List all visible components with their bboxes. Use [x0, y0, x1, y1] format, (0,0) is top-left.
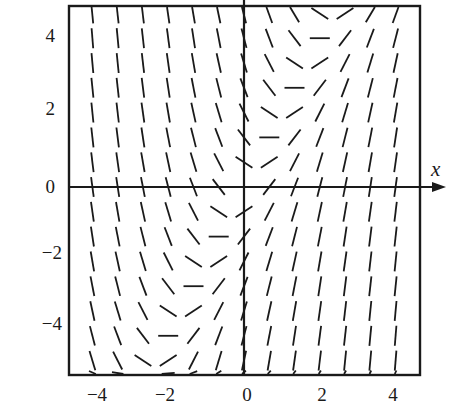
- slope-segment: [214, 153, 223, 171]
- slope-segment: [116, 227, 120, 247]
- slope-segment: [115, 277, 120, 296]
- slope-segment: [216, 78, 221, 97]
- slope-segment: [368, 128, 372, 148]
- slope-segment: [185, 256, 202, 267]
- slope-segment: [141, 227, 146, 246]
- slope-segment: [292, 202, 298, 221]
- slope-segment: [395, 326, 397, 346]
- slope-segment: [343, 152, 347, 172]
- slope-segment: [142, 103, 145, 123]
- slope-segment: [315, 104, 324, 122]
- slope-segment: [344, 252, 347, 272]
- slope-segment: [217, 7, 220, 23]
- slope-segment: [89, 371, 96, 374]
- slope-segment: [142, 28, 144, 48]
- slope-segment: [191, 153, 197, 172]
- x-tick-label: 0: [242, 384, 252, 405]
- slope-segment: [91, 103, 93, 123]
- slope-segment: [117, 28, 119, 48]
- slope-segment: [215, 128, 222, 147]
- slope-segment: [90, 351, 96, 370]
- slope-segment: [290, 153, 299, 171]
- slope-segment: [311, 58, 328, 69]
- slope-segment: [393, 7, 399, 23]
- slope-segment: [139, 277, 146, 296]
- slope-segment: [293, 326, 296, 346]
- slope-segment: [190, 371, 198, 374]
- slope-segment: [395, 227, 397, 247]
- slope-segment: [265, 54, 274, 72]
- slope-segment: [319, 371, 321, 375]
- slope-segment: [189, 203, 198, 221]
- slope-segment: [293, 276, 297, 296]
- slope-segment: [292, 252, 296, 272]
- slope-segment: [292, 227, 297, 246]
- slope-segment: [293, 351, 296, 371]
- slope-segment: [167, 103, 170, 123]
- slope-segment: [366, 7, 375, 22]
- slope-segment: [395, 351, 397, 371]
- slope-segment: [217, 28, 221, 48]
- slope-segment: [394, 78, 398, 98]
- slope-segment: [160, 355, 177, 366]
- slope-segment: [344, 351, 346, 371]
- slope-segment: [395, 276, 397, 296]
- slope-segment: [115, 301, 121, 320]
- slope-segment: [140, 252, 146, 271]
- slope-segment: [394, 202, 396, 222]
- slope-segment: [367, 29, 374, 48]
- slope-segment: [344, 276, 347, 296]
- slope-segment: [113, 352, 122, 370]
- slope-segment: [369, 276, 371, 296]
- slope-segment: [369, 351, 371, 371]
- slope-segment: [142, 78, 145, 98]
- slope-segment: [90, 301, 94, 321]
- slope-segment: [138, 302, 147, 320]
- slope-segment: [318, 252, 321, 272]
- slope-segment: [369, 152, 372, 172]
- slope-segment: [187, 328, 199, 344]
- slope-segment: [267, 277, 272, 296]
- slope-segment: [216, 371, 221, 374]
- x-axis-label: x: [430, 157, 441, 181]
- slope-segment: [165, 227, 172, 246]
- slope-segment: [192, 78, 196, 98]
- slope-segment: [394, 103, 397, 123]
- slope-segment: [210, 206, 227, 217]
- slope-segment: [166, 128, 170, 148]
- slope-segment: [369, 227, 372, 247]
- slope-segment: [266, 252, 272, 271]
- slope-segment: [117, 7, 119, 23]
- slope-segment: [189, 352, 198, 370]
- slope-segment: [314, 80, 326, 96]
- slope-segment: [318, 227, 322, 247]
- slope-segment: [316, 128, 323, 147]
- slope-segment: [117, 103, 119, 123]
- slope-segment: [187, 229, 199, 245]
- slope-segment: [214, 302, 223, 320]
- slope-segment: [267, 301, 271, 321]
- slope-segment: [267, 326, 271, 346]
- slope-segment: [167, 53, 170, 73]
- slope-segment: [261, 157, 278, 168]
- x-tick-label: 4: [388, 384, 398, 405]
- slope-segment: [216, 103, 222, 122]
- slope-segment: [142, 53, 144, 73]
- slope-segment: [368, 103, 372, 123]
- slope-segment: [261, 107, 278, 118]
- slope-segment: [90, 326, 95, 345]
- slope-segment: [337, 8, 354, 19]
- y-tick-label: 2: [46, 98, 56, 119]
- slope-segment: [394, 152, 397, 172]
- slope-segment: [213, 278, 225, 294]
- slope-segment: [141, 128, 144, 148]
- slope-segment: [290, 7, 299, 22]
- slope-segment: [341, 54, 350, 72]
- x-axis-arrow-icon: [432, 182, 446, 192]
- slope-segment: [369, 202, 372, 222]
- slope-segment: [160, 306, 177, 317]
- slope-segment: [117, 53, 119, 73]
- slope-segment: [395, 301, 397, 321]
- slope-segment: [191, 103, 195, 123]
- slope-segment: [92, 28, 94, 48]
